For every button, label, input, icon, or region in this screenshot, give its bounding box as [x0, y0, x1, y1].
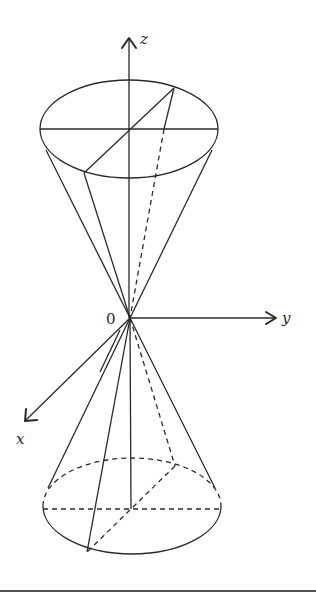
double-cone-diagram: z y x 0: [0, 0, 316, 593]
z-axis-label: z: [139, 30, 148, 48]
upper-cone-left-edge: [46, 150, 130, 318]
lower-cone-right-edge: [130, 318, 215, 488]
lower-cone-left-edge: [48, 318, 130, 488]
lower-cone-axis: [130, 318, 131, 509]
lower-base-back-arc: [43, 458, 221, 506]
lower-cone-back-generator: [130, 318, 175, 466]
upper-cone-front-generator: [84, 173, 130, 318]
upper-cone-back-generator-hidden: [130, 129, 164, 318]
lower-base-front-arc: [43, 506, 221, 554]
x-axis-label: x: [16, 430, 25, 448]
upper-cone-back-generator-visible: [164, 88, 174, 129]
lower-cone: [43, 318, 221, 554]
lower-cone-inner-line-1: [100, 330, 120, 372]
y-axis-label: y: [281, 309, 291, 327]
upper-cone-right-edge: [130, 150, 212, 318]
origin-label: 0: [106, 310, 116, 328]
y-axis: [130, 312, 276, 324]
